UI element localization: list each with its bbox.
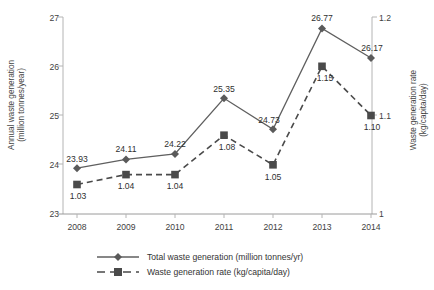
data-label-rate-2011: 1.08 bbox=[207, 142, 247, 152]
data-label-total-2009: 24.11 bbox=[106, 144, 146, 154]
data-label-rate-2014: 1.10 bbox=[352, 122, 392, 132]
data-label-rate-2010: 1.04 bbox=[155, 181, 195, 191]
chart-legend: Total waste generation (million tonnes/y… bbox=[95, 249, 355, 279]
legend-label-waste-generation-rate: Waste generation rate (kg/capita/day) bbox=[147, 267, 290, 277]
legend-key-solid-diamond-icon bbox=[95, 251, 141, 263]
data-label-rate-2009: 1.04 bbox=[106, 181, 146, 191]
legend-label-total-waste-generation: Total waste generation (million tonnes/y… bbox=[147, 252, 303, 262]
data-label-total-2011: 25.35 bbox=[204, 84, 244, 94]
data-label-total-2013: 26.77 bbox=[302, 13, 342, 23]
data-label-total-2010: 24.22 bbox=[155, 139, 195, 149]
legend-item-total-waste-generation: Total waste generation (million tonnes/y… bbox=[95, 249, 355, 264]
data-label-rate-2012: 1.05 bbox=[253, 172, 293, 182]
data-label-rate-2013: 1.15 bbox=[305, 73, 345, 83]
data-label-total-2008: 23.93 bbox=[57, 154, 97, 164]
data-label-rate-2008: 1.03 bbox=[58, 191, 98, 201]
chart-figure: Annual waste generation (million tonnes/… bbox=[0, 0, 434, 290]
legend-item-waste-generation-rate: Waste generation rate (kg/capita/day) bbox=[95, 264, 355, 279]
legend-key-dashed-square-icon bbox=[95, 266, 141, 278]
data-label-total-2012: 24.73 bbox=[249, 115, 289, 125]
data-label-total-2014: 26.17 bbox=[352, 43, 392, 53]
